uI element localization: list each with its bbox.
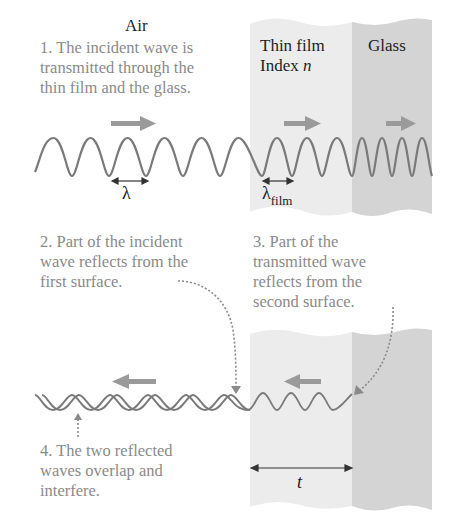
lambda-film-label: λfilm <box>262 183 292 204</box>
step2-line: wave reflects from the <box>40 252 188 272</box>
glass-panel-bottom <box>352 328 432 510</box>
thickness-label: t <box>297 472 302 493</box>
step3-line: 3. Part of the <box>253 232 366 252</box>
step1-line: transmitted through the <box>40 58 194 78</box>
step2-line: 2. Part of the incident <box>40 232 188 252</box>
index-label: Index n <box>260 56 325 76</box>
arrow-left-air <box>112 374 156 389</box>
step3-annotation: 3. Part of the transmitted wave reflects… <box>253 232 366 312</box>
glass-label: Glass <box>368 36 406 56</box>
step3-line: reflects from the <box>253 272 366 292</box>
index-text: Index <box>260 56 303 75</box>
step1-line: 1. The incident wave is <box>40 38 194 58</box>
step4-annotation: 4. The two reflected waves overlap and i… <box>40 441 173 501</box>
lambda-label: λ <box>122 183 131 204</box>
leader-step2 <box>178 281 236 390</box>
arrow-right-air <box>111 116 156 131</box>
lambda-film-subscript: film <box>271 193 293 208</box>
lambda-film-symbol: λ <box>262 183 271 203</box>
step4-line: waves overlap and <box>40 461 173 481</box>
air-label: Air <box>125 16 148 36</box>
step1-annotation: 1. The incident wave is transmitted thro… <box>40 38 194 98</box>
leader-step2-arrowhead <box>231 386 241 394</box>
step2-line: first surface. <box>40 272 188 292</box>
step4-line: 4. The two reflected <box>40 441 173 461</box>
thin-film-label: Thin film Index n <box>260 36 325 76</box>
step1-line: thin film and the glass. <box>40 78 194 98</box>
step4-line: interfere. <box>40 481 173 501</box>
index-symbol: n <box>303 56 312 75</box>
step3-line: second surface. <box>253 292 366 312</box>
leader-step4-arrowhead <box>74 413 82 420</box>
thin-film-title: Thin film <box>260 36 325 56</box>
step2-annotation: 2. Part of the incident wave reflects fr… <box>40 232 188 292</box>
step3-line: transmitted wave <box>253 252 366 272</box>
